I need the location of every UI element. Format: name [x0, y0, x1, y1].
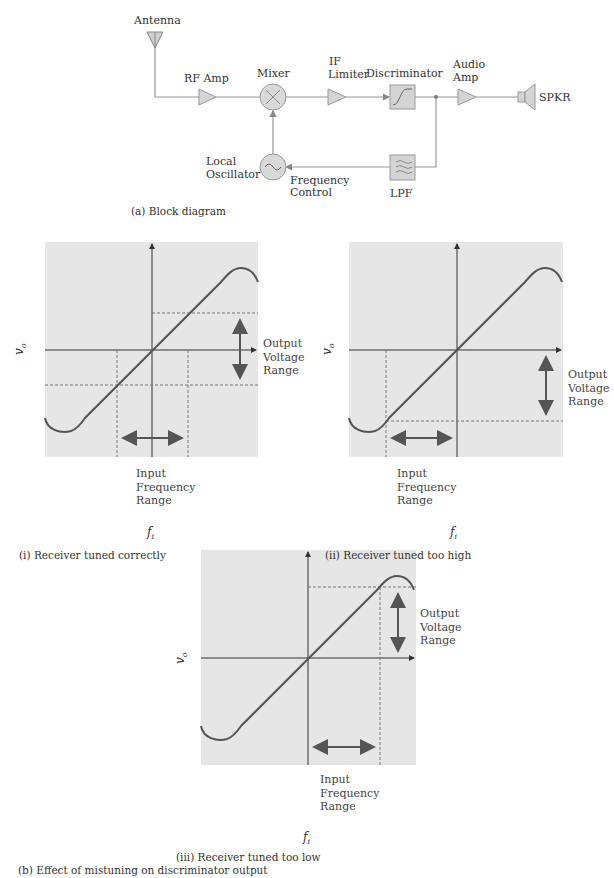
local-oscillator-icon	[260, 154, 286, 180]
speaker-icon	[518, 84, 535, 110]
mixer-icon	[260, 84, 286, 110]
audio-amp-icon	[458, 89, 476, 105]
y-axis-label-iii: vo	[173, 652, 189, 664]
input-range-label-ii: InputFrequencyRange	[397, 467, 457, 508]
plots-caption: (b) Effect of mistuning on discriminator…	[18, 864, 268, 877]
rf-amp-label: RF Amp	[184, 72, 229, 85]
x-axis-label-iii: fi	[303, 830, 310, 846]
antenna-label: Antenna	[134, 14, 181, 27]
x-axis-label-i: fi	[147, 525, 154, 541]
plot-panel-i	[45, 242, 258, 457]
mixer-label: Mixer	[257, 67, 290, 80]
output-range-label-i: OutputVoltageRange	[263, 337, 305, 378]
plot-panel-ii	[349, 242, 563, 457]
y-axis-label-i: vo	[12, 343, 28, 355]
output-range-label-iii: OutputVoltageRange	[420, 607, 462, 648]
local-oscillator-label-1: Local	[206, 155, 236, 168]
discriminator-label: Discriminator	[366, 67, 443, 80]
block-diagram-caption: (a) Block diagram	[131, 205, 226, 218]
lpf-label: LPF	[390, 187, 412, 200]
if-limiter-icon	[328, 89, 346, 105]
if-limiter-label-2: Limiter	[328, 68, 369, 81]
panel-caption-ii: (ii) Receiver tuned too high	[325, 549, 471, 562]
if-limiter-label-1: IF	[329, 55, 341, 68]
discriminator-icon	[390, 85, 415, 109]
output-range-label-ii: OutputVoltageRange	[568, 368, 610, 409]
rf-amp-icon	[199, 89, 216, 105]
panel-caption-iii: (iii) Receiver tuned too low	[176, 851, 321, 864]
y-axis-label-ii: vo	[320, 343, 336, 355]
freq-control-label-2: Control	[290, 186, 332, 199]
speaker-label: SPKR	[539, 91, 570, 104]
audio-amp-label-1: Audio	[453, 58, 485, 71]
input-range-label-iii: InputFrequencyRange	[320, 773, 380, 814]
audio-amp-label-2: Amp	[453, 71, 478, 84]
antenna-icon	[147, 32, 163, 48]
plot-panel-iii	[201, 550, 416, 765]
local-oscillator-label-2: Oscillator	[206, 168, 260, 181]
input-range-label-i: InputFrequencyRange	[136, 467, 196, 508]
x-axis-label-ii: fi	[450, 525, 457, 541]
lpf-icon	[390, 155, 415, 180]
panel-caption-i: (i) Receiver tuned correctly	[19, 549, 166, 562]
